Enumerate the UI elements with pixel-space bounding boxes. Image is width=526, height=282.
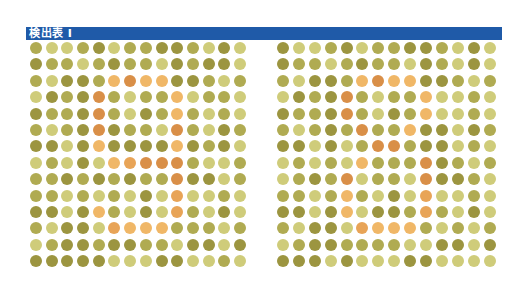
- color-dot: [187, 157, 199, 169]
- color-dot: [420, 91, 432, 103]
- color-dot: [61, 173, 73, 185]
- color-dot: [234, 173, 246, 185]
- color-dot: [61, 42, 73, 54]
- color-dot: [341, 222, 353, 234]
- color-dot: [61, 124, 73, 136]
- color-dot: [484, 222, 496, 234]
- color-dot: [404, 75, 416, 87]
- color-dot: [46, 58, 58, 70]
- color-dot: [108, 239, 120, 251]
- color-dot: [309, 75, 321, 87]
- color-vision-plate-left: [30, 42, 250, 271]
- color-dot: [140, 58, 152, 70]
- color-dot: [388, 42, 400, 54]
- color-dot: [234, 190, 246, 202]
- color-dot: [420, 140, 432, 152]
- color-dot: [484, 124, 496, 136]
- color-dot: [293, 91, 305, 103]
- color-dot: [93, 239, 105, 251]
- color-dot: [388, 140, 400, 152]
- color-dot: [325, 206, 337, 218]
- color-dot: [77, 124, 89, 136]
- color-dot: [156, 239, 168, 251]
- color-dot: [325, 58, 337, 70]
- color-dot: [388, 190, 400, 202]
- plate-title: 検出表 I: [29, 27, 72, 40]
- color-dot: [124, 190, 136, 202]
- color-dot: [140, 255, 152, 267]
- color-dot: [218, 190, 230, 202]
- color-dot: [187, 190, 199, 202]
- color-dot: [468, 140, 480, 152]
- color-dot: [388, 157, 400, 169]
- color-dot: [61, 157, 73, 169]
- color-dot: [372, 108, 384, 120]
- color-dot: [404, 108, 416, 120]
- color-dot: [140, 140, 152, 152]
- color-dot: [218, 140, 230, 152]
- color-dot: [93, 42, 105, 54]
- color-dot: [124, 140, 136, 152]
- color-dot: [468, 206, 480, 218]
- color-dot: [156, 42, 168, 54]
- color-dot: [77, 140, 89, 152]
- color-dot: [156, 173, 168, 185]
- color-dot: [293, 140, 305, 152]
- color-dot: [309, 42, 321, 54]
- color-dot: [293, 173, 305, 185]
- color-dot: [140, 190, 152, 202]
- color-dot: [452, 255, 464, 267]
- color-dot: [156, 206, 168, 218]
- color-dot: [388, 239, 400, 251]
- plate-title-bar: 検出表 I: [26, 27, 502, 40]
- color-dot: [187, 91, 199, 103]
- color-dot: [171, 190, 183, 202]
- color-dot: [30, 91, 42, 103]
- color-dot: [124, 75, 136, 87]
- color-dot: [156, 91, 168, 103]
- color-dot: [93, 58, 105, 70]
- color-dot: [356, 124, 368, 136]
- color-dot: [140, 91, 152, 103]
- color-dot: [46, 91, 58, 103]
- color-dot: [293, 239, 305, 251]
- color-dot: [61, 239, 73, 251]
- color-dot: [187, 124, 199, 136]
- color-dot: [468, 173, 480, 185]
- color-dot: [309, 190, 321, 202]
- color-dot: [61, 255, 73, 267]
- color-dot: [108, 108, 120, 120]
- color-dot: [218, 91, 230, 103]
- color-dot: [124, 173, 136, 185]
- color-dot: [124, 239, 136, 251]
- color-dot: [468, 157, 480, 169]
- color-dot: [77, 91, 89, 103]
- color-dot: [46, 255, 58, 267]
- color-dot: [356, 91, 368, 103]
- color-dot: [372, 91, 384, 103]
- color-dot: [484, 91, 496, 103]
- color-dot: [171, 239, 183, 251]
- color-dot: [325, 140, 337, 152]
- color-dot: [171, 124, 183, 136]
- color-dot: [309, 239, 321, 251]
- color-dot: [388, 91, 400, 103]
- color-dot: [452, 108, 464, 120]
- color-dot: [124, 42, 136, 54]
- color-dot: [140, 239, 152, 251]
- color-dot: [30, 157, 42, 169]
- color-dot: [140, 206, 152, 218]
- color-dot: [30, 124, 42, 136]
- color-dot: [124, 108, 136, 120]
- color-dot: [203, 75, 215, 87]
- color-dot: [309, 173, 321, 185]
- color-dot: [171, 255, 183, 267]
- color-dot: [404, 190, 416, 202]
- color-dot: [93, 206, 105, 218]
- color-dot: [93, 255, 105, 267]
- dot-grid: [30, 42, 250, 271]
- color-dot: [124, 91, 136, 103]
- color-dot: [452, 239, 464, 251]
- color-dot: [156, 157, 168, 169]
- color-dot: [77, 157, 89, 169]
